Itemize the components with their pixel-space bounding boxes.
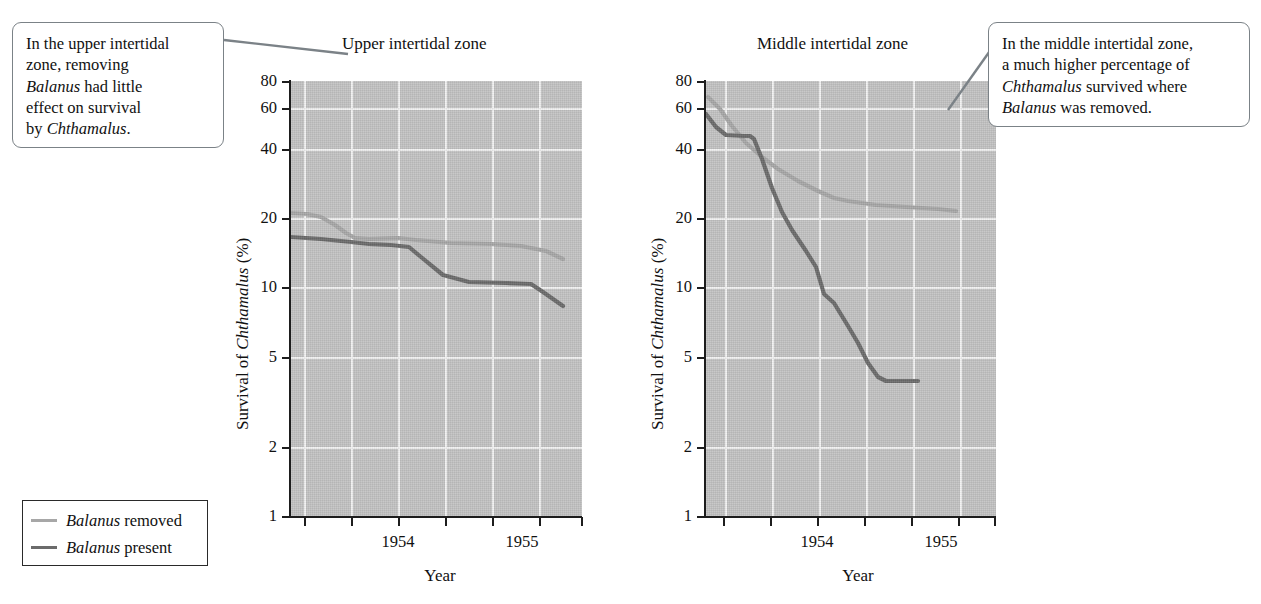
legend-swatch-removed-icon: [31, 519, 57, 522]
plot-area-middle: [706, 81, 996, 516]
y-tick-label: 60: [656, 98, 692, 118]
y-tick-label: 2: [241, 437, 277, 457]
series-line-balanus-present: [706, 114, 918, 381]
plot-area-upper: [291, 81, 582, 516]
legend-label-removed: Balanus removed: [66, 511, 182, 531]
legend: Balanus removed Balanus present: [22, 500, 208, 566]
x-axis-title-left: Year: [390, 566, 490, 586]
series-line-balanus-removed: [291, 213, 563, 259]
legend-item-present: Balanus present: [31, 534, 199, 561]
legend-italic-species: Balanus: [66, 538, 120, 557]
y-tick-label: 20: [241, 208, 277, 228]
legend-item-removed: Balanus removed: [31, 507, 199, 534]
panel-title-upper: Upper intertidal zone: [342, 34, 486, 54]
callout-line: In the upper intertidal: [26, 33, 211, 54]
x-tick: [445, 517, 447, 526]
x-tick: [864, 517, 866, 526]
x-tick: [770, 517, 772, 526]
legend-italic-species: Balanus: [66, 511, 120, 530]
x-tick: [539, 517, 541, 526]
callout-line: by Chthamalus.: [26, 118, 211, 139]
y-tick-label: 1: [241, 506, 277, 526]
x-tick: [398, 517, 400, 526]
legend-label-present: Balanus present: [66, 538, 172, 558]
middle-zone-callout: In the middle intertidal zone, a much hi…: [988, 22, 1250, 127]
y-tick-label: 5: [656, 347, 692, 367]
callout-line: zone, removing: [26, 54, 211, 75]
x-tick-label-1955: 1955: [492, 532, 552, 552]
x-tick: [304, 517, 306, 526]
x-tick-label-1954: 1954: [368, 532, 428, 552]
x-tick-label-1954: 1954: [787, 532, 847, 552]
callout-italic-species: Balanus: [26, 77, 80, 96]
y-tick-label: 20: [656, 208, 692, 228]
panel-title-middle: Middle intertidal zone: [757, 34, 908, 54]
y-tick-label: 60: [241, 98, 277, 118]
x-tick: [958, 517, 960, 526]
callout-italic-species: Chthamalus: [47, 119, 127, 138]
callout-line: Balanus had little: [26, 76, 211, 97]
y-tick-label: 80: [241, 71, 277, 91]
figure-canvas: In the upper intertidal zone, removing B…: [0, 0, 1261, 604]
x-tick: [351, 517, 353, 526]
y-tick-label: 5: [241, 347, 277, 367]
y-axis-title-left: Survival of Chthamalus (%): [233, 238, 253, 430]
series-lines-upper: [291, 81, 582, 516]
upper-zone-callout: In the upper intertidal zone, removing B…: [12, 22, 224, 148]
callout-line: In the middle intertidal zone,: [1002, 33, 1237, 54]
y-axis-title-right: Survival of Chthamalus (%): [648, 238, 668, 430]
x-tick: [492, 517, 494, 526]
x-axis-line-right: [704, 516, 996, 518]
series-lines-middle: [706, 81, 996, 516]
x-axis-title-right: Year: [808, 566, 908, 586]
x-tick: [723, 517, 725, 526]
callout-line: Balanus was removed.: [1002, 97, 1237, 118]
callout-italic-species: Chthamalus: [1002, 77, 1082, 96]
callout-line: Chthamalus survived where: [1002, 76, 1237, 97]
callout-italic-species: Balanus: [1002, 98, 1056, 117]
series-line-balanus-removed: [708, 97, 956, 211]
legend-swatch-present-icon: [31, 546, 57, 549]
y-tick-label: 1: [656, 506, 692, 526]
y-tick-label: 80: [656, 71, 692, 91]
x-tick: [994, 517, 996, 526]
y-tick-label: 10: [656, 277, 692, 297]
y-tick-label: 40: [241, 139, 277, 159]
y-tick-label: 2: [656, 437, 692, 457]
x-tick-label-1955: 1955: [911, 532, 971, 552]
callout-line: a much higher percentage of: [1002, 54, 1237, 75]
left-callout-leader-line: [222, 30, 352, 66]
y-tick-label: 40: [656, 139, 692, 159]
x-tick: [817, 517, 819, 526]
callout-line: effect on survival: [26, 97, 211, 118]
x-tick: [581, 517, 583, 526]
y-tick-label: 10: [241, 277, 277, 297]
x-tick: [911, 517, 913, 526]
